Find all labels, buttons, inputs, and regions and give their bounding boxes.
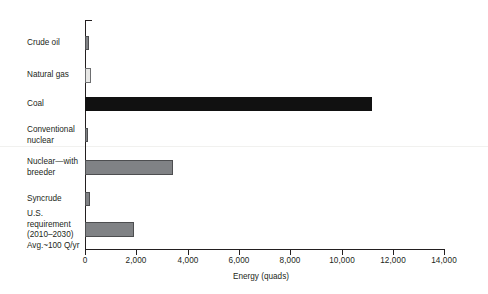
page-fold-rule (0, 146, 488, 147)
x-axis-line (85, 249, 445, 250)
cat-label-us-requirement-line-4: Avg.~100 Q/yr (27, 241, 83, 252)
cat-label-coal: Coal (27, 99, 83, 110)
x-tick-label-8000: 8,000 (280, 256, 301, 265)
x-tick-label-10000: 10,000 (329, 256, 355, 265)
cat-label-us-requirement: U.S. requirement (2010–2030) Avg.~100 Q/… (27, 209, 83, 251)
x-tick-2000 (136, 250, 137, 255)
x-tick-6000 (239, 250, 240, 255)
cat-label-nuclear-with-breeder: Nuclear—with breeder (27, 157, 83, 178)
x-tick-10000 (342, 250, 343, 255)
cat-label-crude-oil-line-1: Crude oil (27, 38, 83, 49)
bar-crude-oil (85, 36, 89, 50)
bar-coal (85, 97, 372, 111)
cat-label-natural-gas: Natural gas (27, 70, 83, 81)
x-axis-title: Energy (quads) (0, 272, 488, 281)
x-tick-label-0: 0 (83, 256, 88, 265)
bar-conventional-nuclear (85, 128, 88, 142)
x-tick-label-6000: 6,000 (229, 256, 250, 265)
y-axis-top-cap (85, 20, 92, 21)
x-tick-label-12000: 12,000 (380, 256, 406, 265)
bar-natural-gas (85, 68, 91, 83)
cat-label-syncrude: Syncrude (27, 194, 83, 205)
x-tick-12000 (393, 250, 394, 255)
cat-label-us-requirement-line-3: (2010–2030) (27, 230, 83, 241)
cat-label-nuclear-with-breeder-line-2: breeder (27, 168, 83, 179)
x-axis-title-text: Energy (quads) (233, 272, 289, 281)
cat-label-coal-line-1: Coal (27, 99, 83, 110)
cat-label-crude-oil: Crude oil (27, 38, 83, 49)
x-tick-8000 (290, 250, 291, 255)
cat-label-conventional-nuclear-line-2: nuclear (27, 136, 83, 147)
cat-label-nuclear-with-breeder-line-1: Nuclear—with (27, 157, 83, 168)
x-tick-0 (85, 250, 86, 255)
x-tick-label-2000: 2,000 (126, 256, 147, 265)
cat-label-syncrude-line-1: Syncrude (27, 194, 83, 205)
x-tick-4000 (188, 250, 189, 255)
bar-nuclear-with-breeder (85, 160, 173, 175)
x-tick-label-14000: 14,000 (431, 256, 457, 265)
x-tick-14000 (444, 250, 445, 255)
bar-syncrude (85, 192, 90, 206)
cat-label-us-requirement-line-2: requirement (27, 220, 83, 231)
cat-label-natural-gas-line-1: Natural gas (27, 70, 83, 81)
x-tick-label-4000: 4,000 (178, 256, 199, 265)
horizontal-bar-chart: 0 2,000 4,000 6,000 8,000 10,000 12,000 … (0, 0, 488, 294)
cat-label-conventional-nuclear: Conventional nuclear (27, 125, 83, 146)
cat-label-us-requirement-line-1: U.S. (27, 209, 83, 220)
bar-us-requirement (85, 222, 134, 237)
cat-label-conventional-nuclear-line-1: Conventional (27, 125, 83, 136)
